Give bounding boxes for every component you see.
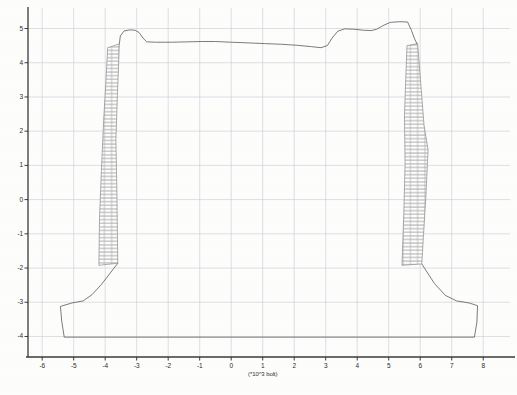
x-tick-label: -3 [127,362,147,369]
figure-root: -6-5-4-3-2-1012345678 543210-1-2-3-4 (*1… [0,0,517,395]
x-tick-label: 0 [221,362,241,369]
x-tick-label: -2 [158,362,178,369]
y-tick-label: 0 [6,196,23,203]
cross-section-plot [0,0,517,395]
x-tick-label: 2 [284,362,304,369]
y-tick-label: -2 [6,264,23,271]
x-tick-label: 1 [253,362,273,369]
y-tick-label: -1 [6,230,23,237]
x-tick-label: 8 [473,362,493,369]
series-left-footing-outline [60,263,117,337]
grid-layer [28,8,510,357]
x-tick-label: 3 [316,362,336,369]
y-tick-label: 5 [6,25,23,32]
y-tick-label: 1 [6,161,23,168]
y-tick-label: 2 [6,127,23,134]
axis-layer [25,7,516,361]
x-tick-label: 6 [410,362,430,369]
x-tick-label: 5 [379,362,399,369]
x-tick-label: 7 [442,362,462,369]
x-tick-label: -5 [64,362,84,369]
y-tick-label: 4 [6,59,23,66]
series-ground-surface-profile [119,22,417,48]
x-tick-label: -1 [190,362,210,369]
x-tick-label: -6 [32,362,52,369]
x-tick-label: 4 [347,362,367,369]
hatched-regions-layer [99,44,428,266]
x-tick-label: -4 [95,362,115,369]
series-right-footing-outline [422,264,478,337]
y-tick-label: -3 [6,298,23,305]
hatched-region-left-column [99,44,119,265]
x-axis-title: (*10^3 bolt) [237,371,289,377]
y-tick-label: 3 [6,93,23,100]
y-tick-label: -4 [6,332,23,339]
hatched-region-right-column [402,44,428,266]
